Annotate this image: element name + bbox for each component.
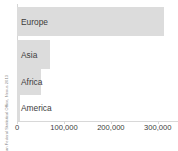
bar-chart: Source: German Federal Statistical Offic… (0, 0, 178, 151)
bar-label-asia: Asia (21, 50, 37, 58)
value-axis-tick-labels: 0100,000200,000300,000 (0, 124, 178, 138)
source-note: Source: German Federal Statistical Offic… (0, 0, 14, 128)
bar-label-america: America (21, 104, 52, 112)
bar-label-africa: Africa (21, 78, 42, 86)
tick-label: 300,000 (144, 124, 171, 132)
tick-label: 100,000 (50, 124, 77, 132)
source-note-text: Source: German Federal Statistical Offic… (5, 75, 9, 151)
tick-label: 200,000 (97, 124, 124, 132)
tick-label: 0 (15, 124, 19, 132)
bar-america (17, 95, 20, 121)
value-axis-line (17, 121, 178, 122)
bar-label-europe: Europe (21, 17, 48, 25)
plot-area: EuropeAsiaAfricaAmerica (17, 4, 178, 121)
